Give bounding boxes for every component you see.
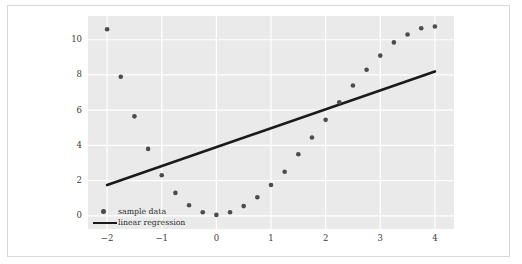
data-point — [255, 195, 260, 200]
data-point — [337, 100, 342, 105]
x-tick-label: 3 — [378, 234, 383, 243]
y-tick-label: 6 — [77, 106, 82, 115]
data-point — [405, 32, 410, 37]
data-point — [200, 210, 205, 215]
y-tick-label: 0 — [77, 211, 82, 220]
legend-label-linear-regression: linear regression — [118, 219, 185, 227]
plot-area — [88, 16, 454, 229]
y-tick-label: 4 — [77, 141, 82, 150]
legend: sample data linear regression — [92, 206, 196, 230]
x-tick-label: 1 — [268, 234, 273, 243]
x-tick-label: −1 — [155, 234, 168, 243]
data-point — [323, 118, 328, 123]
data-point — [392, 40, 397, 45]
data-point — [419, 26, 424, 31]
data-point — [378, 53, 383, 58]
x-tick-label: 2 — [323, 234, 328, 243]
x-gridlines — [107, 16, 435, 229]
data-point — [159, 173, 164, 178]
gridlines — [88, 16, 454, 229]
data-point — [118, 74, 123, 79]
data-point — [269, 183, 274, 188]
data-point — [351, 83, 356, 88]
x-axis-tick-labels: −2−101234 — [88, 234, 454, 248]
data-point — [105, 27, 110, 32]
plot-svg — [88, 16, 454, 229]
data-point — [241, 204, 246, 209]
x-tick-label: 0 — [214, 234, 219, 243]
y-axis-tick-labels: 0246810 — [60, 16, 82, 229]
legend-item-linear-regression: linear regression — [92, 217, 196, 228]
data-point — [214, 213, 219, 218]
data-point — [132, 114, 137, 119]
data-point — [310, 135, 315, 140]
data-point — [364, 67, 369, 72]
data-point — [433, 24, 438, 29]
legend-item-sample-data: sample data — [92, 206, 196, 217]
y-tick-label: 10 — [71, 35, 82, 44]
figure: 0246810 −2−101234 sample data linear reg… — [0, 0, 522, 264]
scatter-marker-icon — [92, 206, 118, 217]
x-tick-label: −2 — [101, 234, 114, 243]
data-point — [173, 191, 178, 196]
data-point — [228, 210, 233, 215]
line-swatch-icon — [92, 217, 118, 228]
y-tick-label: 8 — [77, 70, 82, 79]
data-point — [146, 147, 151, 152]
data-point — [296, 152, 301, 157]
y-tick-label: 2 — [77, 176, 82, 185]
data-point — [282, 169, 287, 174]
legend-label-sample-data: sample data — [118, 208, 166, 216]
x-tick-label: 4 — [432, 234, 437, 243]
